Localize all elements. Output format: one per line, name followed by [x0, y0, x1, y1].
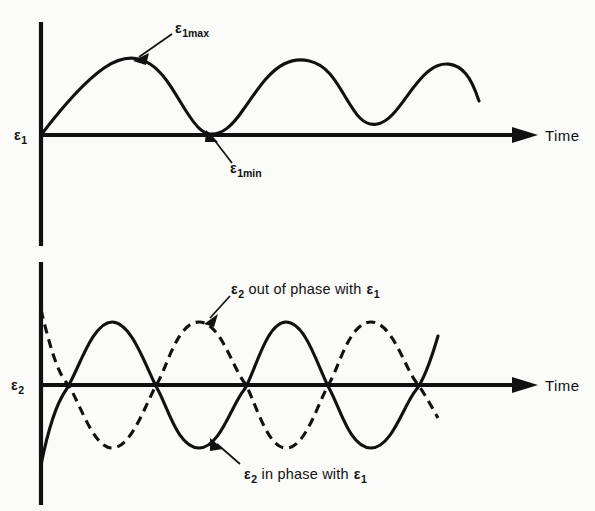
epsilon-glyph: ε	[244, 466, 251, 482]
waveform-figure: ε1 ε1max ε1min Time ε2 ε2out of phase wi…	[0, 0, 595, 511]
epsilon-glyph: ε	[354, 466, 361, 482]
out-of-phase-label: ε2out of phase withε1	[231, 281, 379, 297]
epsilon-2-out-of-phase-curve	[41, 310, 438, 448]
in-phase-arrowhead	[210, 438, 223, 451]
epsilon-1-max-label: ε1max	[175, 21, 209, 35]
epsilon-1-glyph: ε1	[354, 466, 367, 482]
epsilon-2-glyph: ε2	[231, 281, 244, 297]
max-subscript: max	[188, 27, 209, 39]
epsilon-subscript: 1	[374, 288, 380, 300]
epsilon-2-glyph: ε2	[244, 466, 257, 482]
epsilon-1-min-label: ε1min	[230, 161, 261, 175]
top-x-axis-arrowhead	[512, 127, 538, 143]
epsilon-glyph: ε	[11, 377, 18, 393]
epsilon-subscript: 2	[251, 473, 257, 485]
epsilon-glyph: ε	[367, 281, 374, 297]
in-phase-text: in phase with	[262, 466, 349, 482]
epsilon-glyph: ε	[230, 160, 237, 176]
in-phase-label: ε2in phase withε1	[244, 466, 366, 482]
bottom-y-axis-label: ε2	[11, 378, 24, 392]
epsilon-1-glyph: ε1	[367, 281, 380, 297]
min-subscript: min	[243, 167, 262, 179]
bottom-x-axis-arrowhead	[512, 377, 538, 393]
epsilon-glyph: ε	[175, 20, 182, 36]
epsilon-2-in-phase-curve	[41, 322, 438, 465]
epsilon-glyph: ε	[231, 281, 238, 297]
epsilon-subscript: 2	[18, 384, 24, 396]
top-y-axis-label: ε1	[14, 128, 27, 142]
epsilon-subscript: 1	[21, 134, 27, 146]
top-time-label: Time	[545, 128, 579, 143]
out-of-phase-text: out of phase with	[249, 281, 362, 297]
top-panel-group	[40, 22, 538, 246]
epsilon-subscript: 1	[361, 473, 367, 485]
epsilon-subscript: 2	[238, 288, 244, 300]
out-of-phase-leader	[210, 296, 230, 318]
epsilon-glyph: ε	[14, 127, 21, 143]
epsilon-1-max-leader	[139, 34, 172, 57]
epsilon-1-waveform	[41, 58, 479, 135]
figure-canvas	[0, 0, 595, 511]
bottom-time-label: Time	[545, 378, 579, 393]
